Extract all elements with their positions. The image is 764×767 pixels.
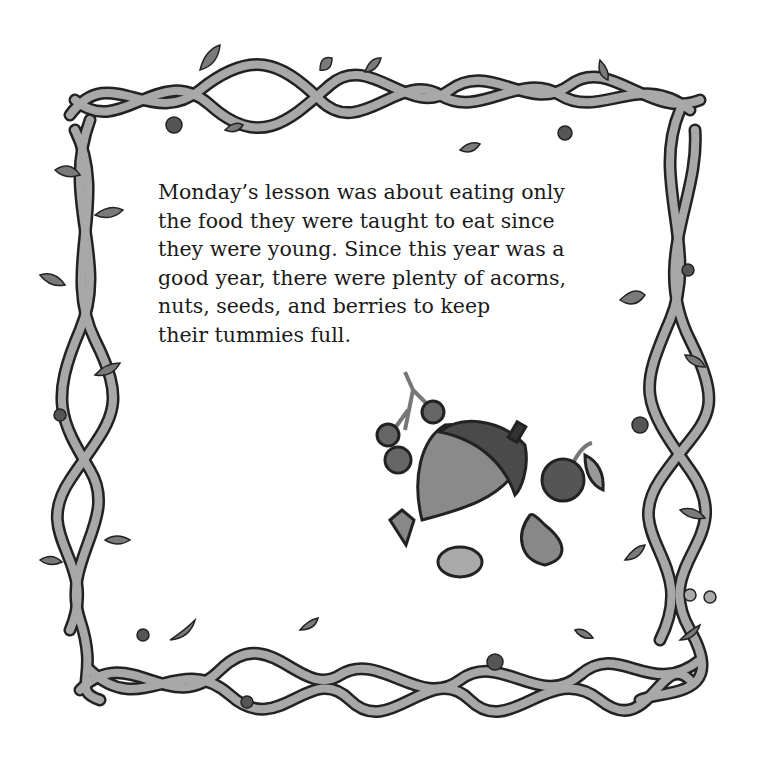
story-line: nuts, seeds, and berries to keep [158, 292, 598, 321]
acorn-icon [418, 421, 527, 520]
seed-icon [438, 547, 482, 577]
story-line: good year, there were plenty of acorns, [158, 264, 598, 293]
vine-border-icon [57, 65, 709, 712]
storybook-page: Monday’s lesson was about eating only th… [0, 0, 764, 767]
story-text: Monday’s lesson was about eating only th… [158, 178, 598, 350]
story-line: the food they were taught to eat since [158, 207, 598, 236]
almond-icon [522, 515, 562, 565]
nut-icon [390, 510, 414, 545]
cherry-icon [542, 443, 603, 501]
story-line: their tummies full. [158, 321, 598, 350]
story-line: Monday’s lesson was about eating only [158, 178, 598, 207]
story-line: they were young. Since this year was a [158, 235, 598, 264]
food-illustration [377, 372, 603, 577]
vine-border-frame [0, 0, 764, 767]
